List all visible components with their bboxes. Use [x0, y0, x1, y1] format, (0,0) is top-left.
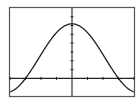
function-plot	[0, 0, 137, 100]
